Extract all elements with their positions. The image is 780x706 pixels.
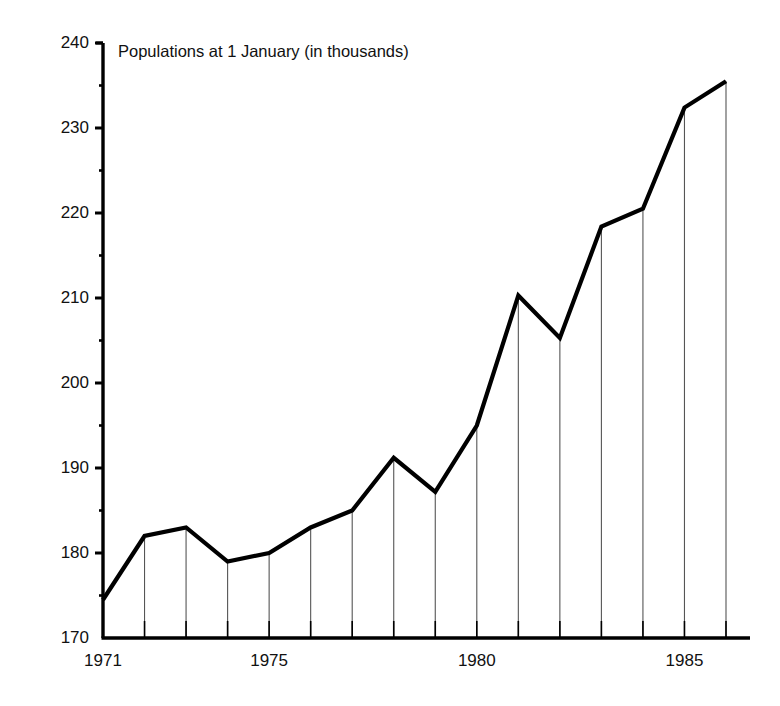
y-axis-tick-label: 180 [37, 543, 89, 563]
y-axis-tick-label: 230 [37, 118, 89, 138]
x-axis-tick-label: 1971 [73, 651, 133, 671]
series-polyline [103, 81, 726, 600]
line-chart-plot [0, 0, 780, 706]
data-series-line [103, 81, 726, 600]
droplines-group [103, 81, 726, 638]
x-axis-ticks [103, 621, 726, 638]
y-axis-tick-label: 220 [37, 203, 89, 223]
y-axis-tick-label: 240 [37, 33, 89, 53]
x-axis-tick-label: 1980 [447, 651, 507, 671]
x-axis-tick-label: 1975 [239, 651, 299, 671]
y-axis-tick-label: 200 [37, 373, 89, 393]
chart-title: Populations at 1 January (in thousands) [118, 42, 409, 61]
x-axis-tick-label: 1985 [654, 651, 714, 671]
axes-group [102, 43, 751, 638]
y-axis-tick-label: 170 [37, 628, 89, 648]
y-axis-tick-label: 210 [37, 288, 89, 308]
y-axis-tick-label: 190 [37, 458, 89, 478]
chart-figure: Populations at 1 January (in thousands) … [0, 0, 780, 706]
